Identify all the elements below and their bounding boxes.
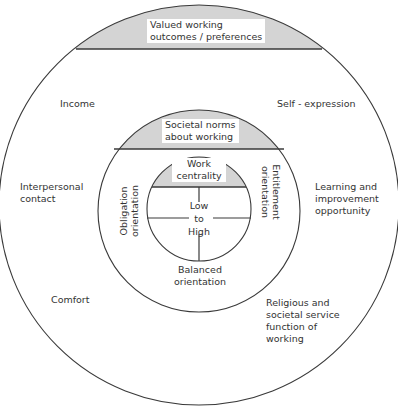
religious-line3: function of bbox=[266, 321, 340, 333]
balanced-line2: orientation bbox=[160, 276, 240, 288]
outer-title-line1: Valued working bbox=[150, 19, 262, 31]
learning-line1: Learning and bbox=[315, 181, 379, 193]
item-interpersonal-contact: Interpersonal contact bbox=[20, 181, 83, 205]
scale-low: Low bbox=[184, 199, 214, 212]
obligation-orientation-label: Obligation orientation bbox=[118, 176, 140, 246]
scale-to: to bbox=[184, 212, 214, 225]
item-comfort: Comfort bbox=[51, 294, 90, 306]
entitlement-line1: Entitlement bbox=[271, 154, 282, 230]
work-centrality-line2: centrality bbox=[175, 170, 223, 182]
balanced-orientation-label: Balanced orientation bbox=[160, 264, 240, 288]
item-self-expression: Self - expression bbox=[277, 98, 356, 110]
balanced-line1: Balanced bbox=[160, 264, 240, 276]
scale-high: High bbox=[184, 225, 214, 238]
obligation-line2: orientation bbox=[129, 176, 140, 246]
low-to-high-scale: Low to High bbox=[184, 199, 214, 238]
learning-line3: opportunity bbox=[315, 205, 379, 217]
item-income: Income bbox=[60, 98, 95, 110]
religious-line4: working bbox=[266, 333, 340, 345]
item-learning-improvement: Learning and improvement opportunity bbox=[315, 181, 379, 217]
middle-title-line2: about working bbox=[165, 131, 236, 143]
entitlement-line2: orientation bbox=[260, 154, 271, 230]
middle-title-line1: Societal norms bbox=[165, 119, 236, 131]
outer-title: Valued working outcomes / preferences bbox=[147, 19, 265, 43]
item-religious-societal: Religious and societal service function … bbox=[266, 297, 340, 345]
obligation-line1: Obligation bbox=[118, 176, 129, 246]
middle-title: Societal norms about working bbox=[162, 119, 239, 143]
outer-title-line2: outcomes / preferences bbox=[150, 31, 262, 43]
work-centrality-title: Work centrality bbox=[172, 158, 226, 182]
interpersonal-line1: Interpersonal bbox=[20, 181, 83, 193]
religious-line2: societal service bbox=[266, 309, 340, 321]
religious-line1: Religious and bbox=[266, 297, 340, 309]
work-centrality-line1: Work bbox=[175, 158, 223, 170]
learning-line2: improvement bbox=[315, 193, 379, 205]
interpersonal-line2: contact bbox=[20, 193, 83, 205]
entitlement-orientation-label: Entitlement orientation bbox=[260, 154, 282, 230]
